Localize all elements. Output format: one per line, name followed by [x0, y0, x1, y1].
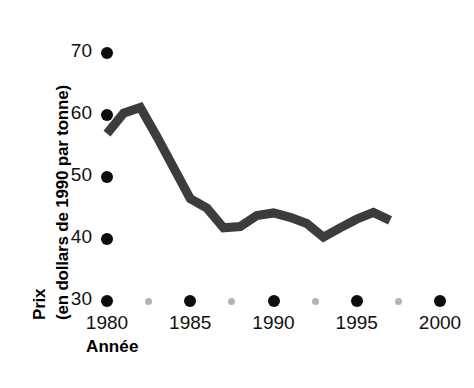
- y-tick-label-60: 60: [50, 102, 92, 124]
- x-axis-minor-dot: [395, 298, 402, 305]
- y-tick-label-30: 30: [50, 288, 92, 310]
- x-tick-label-1990: 1990: [239, 312, 309, 334]
- x-tick-label-1995: 1995: [322, 312, 392, 334]
- y-axis-tick-labels: 7060504030: [50, 0, 92, 320]
- x-axis-minor-dot: [145, 298, 152, 305]
- x-axis-minor-dot: [312, 298, 319, 305]
- y-tick-label-50: 50: [50, 164, 92, 186]
- price-series-line: [107, 108, 390, 238]
- chart-container: Prix (en dollars de 1990 par tonne) 7060…: [0, 0, 474, 388]
- x-tick-label-1980: 1980: [72, 312, 142, 334]
- x-tick-label-2000: 2000: [405, 312, 474, 334]
- y-tick-label-70: 70: [50, 40, 92, 62]
- x-axis-dot-1990: [268, 295, 280, 307]
- y-axis-dot-30: [101, 295, 113, 307]
- y-axis-title-line1: Prix: [30, 289, 50, 320]
- x-tick-label-1985: 1985: [155, 312, 225, 334]
- x-axis-minor-dot: [228, 298, 235, 305]
- y-axis-dot-50: [101, 171, 113, 183]
- x-axis-dot-2000: [434, 295, 446, 307]
- y-axis-dot-60: [101, 109, 113, 121]
- x-axis-title: Année: [86, 337, 138, 357]
- x-axis-dot-1985: [184, 295, 196, 307]
- y-axis-dot-70: [101, 47, 113, 59]
- y-tick-label-40: 40: [50, 226, 92, 248]
- x-axis-dot-1995: [351, 295, 363, 307]
- y-axis-dot-40: [101, 233, 113, 245]
